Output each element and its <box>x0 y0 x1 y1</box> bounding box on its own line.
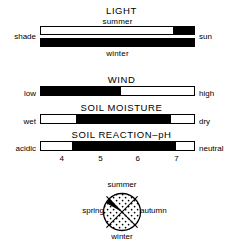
season-label-autumn: autumn <box>140 206 190 215</box>
soil-reaction-bar <box>40 141 195 151</box>
soil-reaction-left-label: acidic <box>0 144 36 153</box>
season-label-summer: summer <box>60 180 184 189</box>
wind-panel-title: WIND <box>0 75 243 85</box>
light-winter-bar-fill <box>41 39 194 46</box>
wind-bar-fill <box>41 87 121 95</box>
soil-moisture-panel-title: SOIL MOISTURE <box>0 103 243 113</box>
ph-tick-6: 6 <box>131 154 145 163</box>
figure-root: LIGHT summer shade sun winter WIND low h… <box>0 0 243 248</box>
soil-moisture-bar-fill <box>76 115 171 123</box>
season-label-spring: spring <box>60 206 104 215</box>
soil-reaction-bar-fill <box>72 142 176 150</box>
light-winter-sublabel: winter <box>40 49 195 58</box>
soil-moisture-left-label: wet <box>0 117 36 126</box>
wind-bar <box>40 86 195 96</box>
wind-right-label: high <box>199 89 243 98</box>
wind-left-label: low <box>0 89 36 98</box>
soil-reaction-right-label: neutral <box>199 144 243 153</box>
season-circle-graphic <box>100 190 144 234</box>
flowering-season-circle: summer spring autumn winter <box>60 180 184 246</box>
light-panel-title: LIGHT <box>0 6 243 16</box>
light-left-label: shade <box>0 32 36 41</box>
soil-moisture-bar <box>40 114 195 124</box>
light-summer-bar <box>40 26 195 35</box>
light-right-label: sun <box>199 32 243 41</box>
ph-scale-axis: 4567 <box>40 154 195 166</box>
light-summer-bar-fill <box>173 27 194 34</box>
soil-moisture-right-label: dry <box>199 117 243 126</box>
soil-reaction-panel-title: SOIL REACTION–pH <box>0 130 243 140</box>
light-winter-bar <box>40 38 195 47</box>
light-summer-sublabel: summer <box>40 17 195 26</box>
ph-tick-5: 5 <box>93 154 107 163</box>
ph-tick-7: 7 <box>169 154 183 163</box>
ph-tick-4: 4 <box>55 154 69 163</box>
